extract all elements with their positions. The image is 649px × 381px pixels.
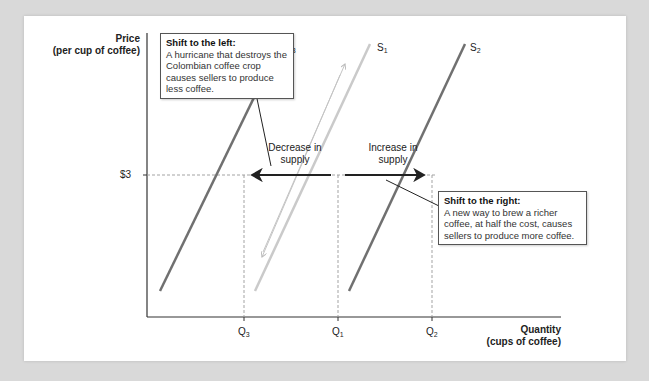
y-axis-title: Price (per cup of coffee)	[40, 33, 140, 57]
decrease-label: Decrease insupply	[258, 142, 332, 166]
shift-left-callout: Shift to the left: A hurricane that dest…	[160, 33, 294, 99]
price-tick-label: $3	[120, 169, 131, 181]
q1-label: Q1	[332, 326, 344, 341]
shift-right-callout: Shift to the right: A new way to brew a …	[438, 191, 587, 245]
s1-down-arrow	[262, 75, 340, 257]
increase-label: Increase insupply	[356, 142, 430, 166]
s2-label: S2	[470, 42, 481, 57]
x-axis-title: Quantity (cups of coffee)	[461, 324, 561, 348]
q2-label: Q2	[426, 326, 438, 341]
s1-label: S1	[377, 42, 388, 57]
q3-label: Q3	[238, 326, 250, 341]
curve-s2	[349, 44, 465, 291]
